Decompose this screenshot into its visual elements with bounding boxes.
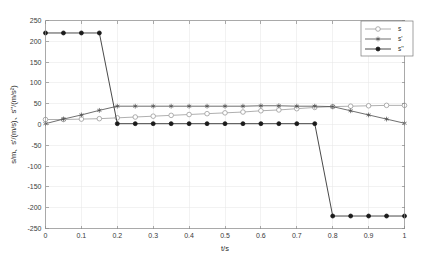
data-point-marker — [133, 122, 137, 126]
data-point-marker — [151, 122, 155, 126]
data-point-marker — [187, 112, 192, 117]
data-point-marker — [115, 122, 119, 126]
data-point-marker — [241, 122, 245, 126]
data-point-marker — [205, 111, 210, 116]
y-tick-label: 200 — [30, 38, 42, 45]
data-point-marker — [223, 122, 227, 126]
data-point-marker — [295, 122, 299, 126]
x-tick-label: 0.5 — [220, 232, 230, 239]
y-tick-label: -50 — [31, 142, 41, 149]
x-axis-title: t/s — [221, 244, 229, 253]
data-point-marker — [277, 108, 282, 113]
data-point-marker — [223, 111, 228, 116]
data-point-marker — [151, 114, 156, 119]
y-tick-label: 50 — [34, 100, 42, 107]
legend-item-label: s'' — [398, 45, 404, 52]
data-point-marker — [205, 122, 209, 126]
legend[interactable]: ss's'' — [361, 21, 413, 56]
data-point-marker — [133, 115, 138, 120]
x-tick-label: 0.4 — [184, 232, 194, 239]
data-point-marker — [187, 122, 191, 126]
data-point-marker — [376, 27, 381, 32]
data-point-marker — [384, 103, 389, 108]
y-tick-label: -200 — [27, 204, 41, 211]
y-tick-label: 250 — [30, 17, 42, 24]
data-point-marker — [385, 214, 389, 218]
x-tick-label: 0.1 — [77, 232, 87, 239]
data-point-marker — [367, 214, 371, 218]
y-tick-label: -250 — [27, 225, 41, 232]
data-point-marker — [348, 104, 353, 109]
data-point-marker — [97, 31, 101, 35]
y-tick-label: -100 — [27, 163, 41, 170]
legend-box — [361, 21, 413, 56]
x-tick-label: 1 — [403, 232, 407, 239]
data-point-marker — [169, 122, 173, 126]
figure-background — [0, 0, 422, 266]
y-tick-label: -150 — [27, 183, 41, 190]
legend-item-label: s' — [398, 35, 403, 42]
y-tick-label: 100 — [30, 79, 42, 86]
data-point-marker — [277, 122, 281, 126]
x-tick-label: 0.9 — [364, 232, 374, 239]
data-point-marker — [376, 47, 380, 51]
x-tick-label: 0.8 — [328, 232, 338, 239]
data-point-marker — [97, 116, 102, 121]
x-tick-label: 0.6 — [256, 232, 266, 239]
figure-canvas: 00.10.20.30.40.50.60.70.80.91 -250-200-1… — [0, 0, 422, 266]
data-point-marker — [79, 117, 84, 122]
data-point-marker — [331, 214, 335, 218]
data-point-marker — [61, 31, 65, 35]
y-tick-label: 150 — [30, 59, 42, 66]
y-tick-label: 0 — [38, 121, 42, 128]
data-point-marker — [313, 122, 317, 126]
x-tick-label: 0 — [44, 232, 48, 239]
data-point-marker — [79, 31, 83, 35]
x-tick-label: 0.2 — [112, 232, 122, 239]
data-point-marker — [259, 108, 264, 113]
x-tick-label: 0.7 — [292, 232, 302, 239]
chart-plot: 00.10.20.30.40.50.60.70.80.91 -250-200-1… — [0, 0, 422, 266]
data-point-marker — [169, 113, 174, 118]
data-point-marker — [366, 103, 371, 108]
data-point-marker — [349, 214, 353, 218]
data-point-marker — [241, 110, 246, 115]
y-axis-title: s/m、s'/(m/s)、s''/(m/s²) — [9, 85, 18, 164]
data-point-marker — [259, 122, 263, 126]
x-tick-label: 0.3 — [148, 232, 158, 239]
